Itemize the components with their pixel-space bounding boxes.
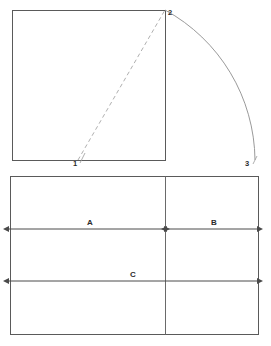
dimension-c-label: C <box>130 270 136 279</box>
vertex-label-2: 2 <box>168 8 172 17</box>
construction-arc <box>165 10 255 160</box>
geometric-diagram: 1 2 3 A B C <box>0 0 271 346</box>
dimension-c: C <box>9 270 257 281</box>
point1-tick <box>80 153 85 163</box>
dimension-b-label: B <box>211 218 217 227</box>
lower-construction: A B C <box>9 177 259 335</box>
rectangle-outline <box>11 177 259 335</box>
dimension-a-label: A <box>87 218 93 227</box>
vertex-label-3: 3 <box>245 159 249 168</box>
square-outline <box>13 11 166 161</box>
upper-construction: 1 2 3 <box>13 8 258 168</box>
vertex-label-1: 1 <box>73 159 77 168</box>
dimension-a: A <box>9 218 164 229</box>
dimension-b: B <box>167 218 257 229</box>
diagonal-dashed-line <box>78 10 165 160</box>
diagram-canvas: 1 2 3 A B C <box>0 0 271 346</box>
